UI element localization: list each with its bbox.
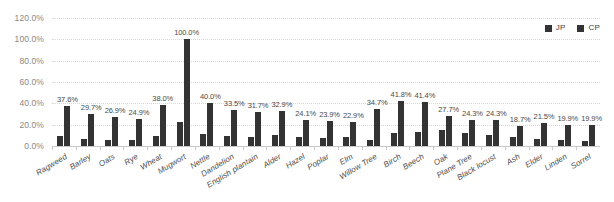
bar-group: 22.9% [338,18,362,146]
x-axis-label-cell: Elder [529,150,553,202]
bar-group: 18.7% [505,18,529,146]
plot-area: 37.6%29.7%26.9%24.9%38.0%100.0%40.0%33.5… [52,18,600,146]
y-axis-tick-label: 20.0% [19,120,44,130]
bar-value-label: 24.3% [486,109,507,118]
bar-cp: 37.6% [64,106,70,146]
x-axis-label-cell: Black locust [481,150,505,202]
bar-jp [486,135,492,146]
x-axis-label-cell: Wheat [147,150,171,202]
bar-cp: 31.7% [255,112,261,146]
bar-cp: 19.9% [565,125,571,146]
bar-jp [343,137,349,146]
bar-group: 33.5% [219,18,243,146]
bar-cp: 27.7% [446,116,452,146]
bar-cp: 23.9% [327,121,333,146]
x-axis-category-label: Ash [505,152,522,167]
bar-cp: 29.7% [88,114,94,146]
bar-group: 27.7% [433,18,457,146]
bar-jp [248,137,254,146]
bar-group: 29.7% [76,18,100,146]
bar-cp: 41.8% [398,101,404,146]
bar-value-label: 19.9% [581,114,602,123]
bar-jp [296,137,302,146]
x-axis-label-cell: Sorrel [576,150,600,202]
x-axis-label-cell: Linden [552,150,576,202]
x-axis-category-label: Oats [97,152,116,169]
bar-group: 41.8% [386,18,410,146]
bar-cp: 34.7% [374,109,380,146]
bar-jp [391,133,397,146]
bar-group: 24.3% [457,18,481,146]
x-axis-label-cell: Poplar [314,150,338,202]
bar-group: 41.4% [409,18,433,146]
legend-label-cp: CP [588,24,600,32]
bar-value-label: 41.8% [391,90,412,99]
bar-group: 31.7% [243,18,267,146]
bar-cp: 24.3% [493,120,499,146]
bar-cp: 22.9% [350,122,356,146]
y-axis-tick-label: 100.0% [15,34,44,44]
chart-legend: JP CP [545,24,600,32]
x-axis-label-cell: Ash [505,150,529,202]
bar-jp [415,132,421,146]
bar-jp [81,139,87,146]
bar-value-label: 33.5% [224,99,245,108]
x-axis-label-cell: Mugwort [171,150,195,202]
x-axis-category-label: Rye [123,152,140,167]
x-axis-category-label: Ragweed [34,152,68,177]
legend-swatch-cp [577,25,584,32]
bar-group: 40.0% [195,18,219,146]
bar-value-label: 34.7% [367,98,388,107]
legend-swatch-jp [545,25,552,32]
bar-value-label: 41.4% [414,91,435,100]
bar-value-label: 37.6% [57,95,78,104]
legend-entry-cp: CP [577,24,600,32]
bar-jp [462,133,468,146]
bar-group: 32.9% [266,18,290,146]
y-axis-tick-label: 0.0% [24,141,44,151]
x-axis-label-cell: Rye [123,150,147,202]
bar-cp: 40.0% [207,103,213,146]
x-axis-label-cell: Ragweed [52,150,76,202]
bar-cp: 33.5% [231,110,237,146]
bar-group: 19.9% [552,18,576,146]
bar-cp: 41.4% [422,102,428,146]
bar-value-label: 29.7% [81,103,102,112]
bar-value-label: 22.9% [343,111,364,120]
bar-cp: 18.7% [517,126,523,146]
y-axis-tick-label: 120.0% [15,13,44,23]
legend-label-jp: JP [556,24,566,32]
bar-jp [272,135,278,146]
bar-value-label: 24.3% [462,109,483,118]
bar-jp [439,130,445,146]
x-axis-label-cell: Hazel [290,150,314,202]
bar-cp: 26.9% [112,117,118,146]
y-axis-tick-label: 60.0% [19,77,44,87]
x-axis-label-cell: Beech [409,150,433,202]
bar-jp [510,137,516,146]
bar-value-label: 26.9% [105,106,126,115]
bar-jp [320,138,326,146]
x-axis-labels: RagweedBarleyOatsRyeWheatMugwortNettleDa… [52,150,600,202]
bar-group: 34.7% [362,18,386,146]
bar-cp: 32.9% [279,111,285,146]
bar-value-label: 21.5% [534,112,555,121]
bar-group: 24.9% [123,18,147,146]
bar-jp [224,136,230,146]
bar-cp: 100.0% [184,39,190,146]
bar-group: 24.1% [290,18,314,146]
bar-value-label: 19.9% [557,114,578,123]
x-axis-label-cell: Oats [100,150,124,202]
bar-cp: 21.5% [541,123,547,146]
bar-group: 37.6% [52,18,76,146]
bar-group: 21.5% [529,18,553,146]
x-axis-label-cell: Willow Tree [362,150,386,202]
y-axis-tick-label: 40.0% [19,98,44,108]
y-axis: 120.0%100.0%80.0%60.0%40.0%20.0%0.0% [0,18,48,146]
bar-jp [153,136,159,146]
bar-jp [200,134,206,146]
bar-group: 23.9% [314,18,338,146]
bar-cp: 19.9% [589,125,595,146]
bar-value-label: 27.7% [438,105,459,114]
x-axis-label-cell: English plantain [243,150,267,202]
